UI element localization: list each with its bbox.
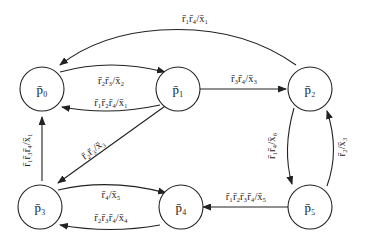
node-p0: p̄₀ — [20, 67, 64, 111]
node-p2: p̄₂ — [288, 67, 332, 111]
edge-label-p4-p3: r̄₂r̄₃r̄₄/x̄₄ — [94, 212, 128, 223]
state-diagram: p̄₀ p̄₁ p̄₂ p̄₃ p̄₄ p̄₅ r̄₁r̄₄/x̄₁ r̄₂r̄… — [0, 0, 371, 243]
edge-p2-p0 — [60, 29, 296, 65]
edge-label-p2-p0: r̄₁r̄₄/x̄₁ — [182, 13, 208, 24]
edge-label-p3-p4: r̄₄/x̄₅ — [102, 189, 121, 200]
edge-p1-p3 — [58, 104, 168, 183]
edge-p0-p1 — [60, 65, 165, 72]
edge-label-p3-p0: r̄₁r̄₃r̄₄/x̄₁ — [21, 133, 32, 166]
edge-label-p1-p2: r̄₃r̄₄/x̄₃ — [231, 73, 257, 84]
edge-p5-p2 — [327, 111, 334, 186]
svg-text:p̄₃: p̄₃ — [34, 200, 45, 215]
svg-text:p̄₀: p̄₀ — [36, 82, 47, 97]
edge-label-p1-p0: r̄₁r̄₂r̄₄/x̄₁ — [94, 97, 127, 108]
node-p5: p̄₅ — [288, 185, 332, 229]
node-p3: p̄₃ — [18, 185, 62, 229]
edge-label-p2-p5: r̄₁r̄₄/x̄₆ — [266, 133, 277, 159]
svg-text:p̄₂: p̄₂ — [304, 82, 315, 97]
edge-label-p0-p1: r̄₂r̄₃/x̄₂ — [98, 75, 124, 86]
edge-label-p5-p2: r̄₂/x̄₃ — [336, 137, 347, 156]
svg-text:p̄₄: p̄₄ — [175, 200, 187, 215]
edge-label-p5-p4: r̄₁r̄₂r̄₃r̄₄/x̄₅ — [226, 191, 267, 202]
svg-text:p̄₁: p̄₁ — [172, 82, 183, 97]
node-p1: p̄₁ — [156, 67, 200, 111]
edge-p4-p3 — [60, 225, 160, 230]
svg-text:p̄₅: p̄₅ — [304, 200, 315, 215]
node-p4: p̄₄ — [159, 185, 203, 229]
edge-p2-p5 — [287, 108, 294, 184]
